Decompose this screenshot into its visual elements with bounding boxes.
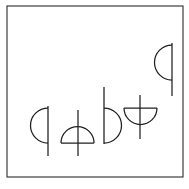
outer-border-rectangle [7, 6, 183, 177]
glyph-figure-svg [0, 0, 189, 189]
figure-canvas: Abstract Glyph Figure [0, 0, 189, 189]
